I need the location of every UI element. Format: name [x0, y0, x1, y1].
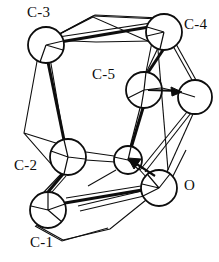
atom-unlabeled-right	[178, 80, 212, 114]
bond-edge-c4-right-b	[176, 44, 196, 80]
atom-label-c3: C-3	[27, 5, 50, 20]
atom-label-c1: C-1	[30, 235, 53, 250]
bond-edge-c4-right-a	[173, 46, 192, 80]
bond-edge-x2-left-thin	[86, 152, 114, 156]
bond-c2-c1-bold	[48, 174, 63, 192]
atom-c2	[50, 139, 86, 175]
bond-edge-bottom-fold	[63, 200, 146, 240]
molecular-structure-figure: C-3 C-4 C-5 C-2 O C-1	[0, 0, 219, 262]
atom-c4	[146, 14, 182, 50]
bond-edge-c2-x2-thin	[86, 160, 115, 162]
atom-label-o: O	[184, 178, 195, 193]
atom-label-c4: C-4	[184, 17, 207, 32]
atom-o	[141, 170, 177, 206]
bond-edge-o-right-rim	[172, 150, 186, 178]
bond-c3-c2-bold	[48, 62, 64, 140]
bond-c5-x2-bold	[131, 108, 143, 148]
atom-c3	[28, 27, 64, 63]
atom-label-c2: C-2	[14, 158, 37, 173]
bond-edge-c2-c1-thin	[44, 173, 62, 192]
bond-edge-x2-lowleft-thin	[88, 170, 116, 186]
atom-c1	[30, 192, 66, 228]
bond-edge-x1-to-o	[166, 114, 193, 174]
bond-edge-right-side-long	[158, 50, 168, 170]
bond-edge-x1-down-b	[145, 113, 191, 172]
molecule-drawing	[0, 0, 219, 262]
atom-label-c5: C-5	[92, 67, 115, 82]
